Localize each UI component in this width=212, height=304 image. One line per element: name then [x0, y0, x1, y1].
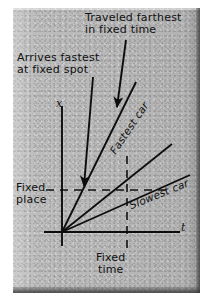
callout-traveled-farthest: Traveled farthest in fixed time [85, 12, 182, 37]
arrow-traveled-farthest [117, 40, 126, 107]
x-axis-label: t [181, 222, 186, 234]
y-axis-label: x [56, 98, 62, 110]
callout-arrives-fastest: Arrives fastest at fixed spot [17, 52, 99, 77]
label-fixed-place: Fixed place [16, 182, 47, 207]
arrow-arrives-fastest [84, 77, 93, 186]
figure-root: Traveled farthest in fixed time Arrives … [0, 0, 212, 304]
label-fixed-time: Fixed time [96, 252, 126, 277]
line-fastest-car [62, 82, 136, 232]
